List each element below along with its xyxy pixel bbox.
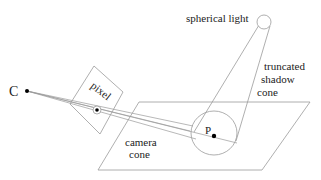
spherical-light-icon [257, 15, 271, 29]
camera-point-dot [25, 89, 29, 93]
spherical-light-label: spherical light [186, 12, 249, 24]
shadow-cone-diagram: C pixel P spherical light truncated shad… [0, 0, 321, 180]
point-p-label: P [205, 124, 211, 136]
shadow-cone-label-1: truncated [264, 60, 305, 72]
shadow-cone-label-2: shadow [261, 73, 295, 85]
point-p-dot [212, 134, 216, 138]
camera-cone-label-1: camera [125, 136, 157, 148]
pixel-sample-dot [95, 108, 99, 112]
shadow-cone-left-edge [194, 25, 259, 132]
camera-label: C [9, 84, 18, 99]
camera-cone-label-2: cone [129, 148, 150, 160]
pixel-square [70, 66, 123, 134]
shadow-cone-label-3: cone [257, 86, 278, 98]
